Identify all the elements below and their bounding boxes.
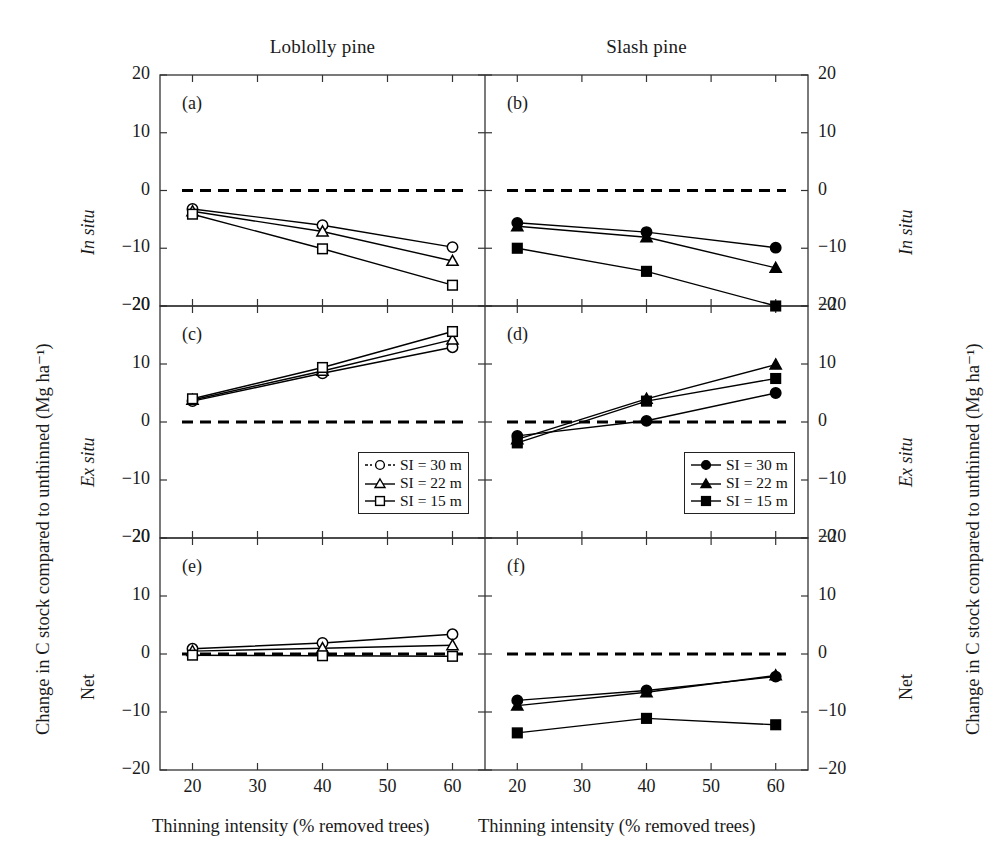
data-point-square	[188, 394, 198, 404]
data-point-square	[642, 396, 652, 406]
y-tick-label: −10	[100, 700, 150, 721]
y-tick-label: 10	[818, 584, 868, 605]
y-tick-label: 10	[818, 121, 868, 142]
legend-label: SI = 22 m	[726, 474, 788, 492]
circle-filled-icon	[689, 457, 723, 473]
x-tick-label: 60	[751, 776, 801, 797]
data-point-square	[771, 301, 781, 311]
data-point-circle	[447, 629, 457, 639]
legend-label: SI = 15 m	[400, 492, 462, 510]
data-point-circle	[447, 242, 457, 252]
data-point-circle	[641, 416, 651, 426]
series-line	[517, 379, 775, 443]
data-point-square	[188, 650, 198, 660]
y-tick-label: 10	[818, 352, 868, 373]
data-point-circle	[771, 242, 781, 252]
y-tick-label: 20	[100, 294, 150, 315]
legend-item: SI = 30 m	[689, 456, 788, 474]
triangle-filled-icon	[689, 475, 723, 491]
legend-label: SI = 30 m	[400, 456, 462, 474]
legend-label: SI = 30 m	[726, 456, 788, 474]
square-filled-icon	[689, 493, 723, 509]
x-tick-label: 50	[363, 776, 413, 797]
y-tick-label: 20	[818, 526, 868, 547]
data-point-square	[448, 327, 458, 337]
y-tick-label: 10	[100, 121, 150, 142]
data-point-square	[318, 651, 328, 661]
data-point-square	[513, 438, 523, 448]
data-point-triangle	[770, 359, 781, 369]
data-point-square	[771, 720, 781, 730]
panel-tag-b: (b)	[507, 93, 528, 114]
data-point-square	[188, 209, 198, 219]
circle-open-icon	[363, 457, 397, 473]
legend-item: SI = 15 m	[689, 492, 788, 510]
y-tick-label: 0	[100, 179, 150, 200]
data-point-square	[771, 374, 781, 384]
y-tick-label: 0	[818, 642, 868, 663]
data-point-square	[642, 714, 652, 724]
legend-slash: SI = 30 m SI = 22 m SI = 15 m	[684, 452, 795, 514]
panel-tag-e: (e)	[182, 556, 202, 577]
triangle-open-icon	[363, 475, 397, 491]
x-tick-label: 30	[557, 776, 607, 797]
series-line	[517, 248, 775, 306]
y-tick-label: −10	[818, 700, 868, 721]
x-tick-label: 40	[298, 776, 348, 797]
data-point-square	[318, 244, 328, 254]
y-tick-label: −10	[100, 468, 150, 489]
y-tick-label: 10	[100, 352, 150, 373]
x-tick-label: 40	[622, 776, 672, 797]
y-tick-label: 20	[818, 63, 868, 84]
data-point-circle	[771, 388, 781, 398]
legend-label: SI = 22 m	[400, 474, 462, 492]
panel-tag-d: (d)	[507, 324, 528, 345]
data-point-square	[513, 243, 523, 253]
data-point-square	[318, 363, 328, 373]
y-tick-label: 0	[818, 410, 868, 431]
data-point-square	[642, 267, 652, 277]
y-tick-label: 0	[818, 179, 868, 200]
legend-loblolly: SI = 30 m SI = 22 m SI = 15 m	[358, 452, 469, 514]
y-tick-label: −20	[818, 758, 868, 779]
x-tick-label: 20	[168, 776, 218, 797]
x-tick-label: 50	[686, 776, 736, 797]
y-tick-label: 20	[100, 526, 150, 547]
y-tick-label: 10	[100, 584, 150, 605]
y-tick-label: −10	[818, 236, 868, 257]
y-tick-label: 20	[100, 63, 150, 84]
legend-item: SI = 22 m	[689, 474, 788, 492]
panel-tag-c: (c)	[182, 324, 202, 345]
y-tick-label: −20	[100, 758, 150, 779]
x-tick-label: 20	[492, 776, 542, 797]
data-point-square	[448, 652, 458, 662]
data-point-square	[448, 280, 458, 290]
panel-tag-a: (a)	[182, 93, 202, 114]
panel-tag-f: (f)	[507, 556, 525, 577]
legend-item: SI = 30 m	[363, 456, 462, 474]
y-tick-label: 0	[100, 410, 150, 431]
y-tick-label: −10	[818, 468, 868, 489]
legend-item: SI = 22 m	[363, 474, 462, 492]
square-open-icon	[363, 493, 397, 509]
legend-label: SI = 15 m	[726, 492, 788, 510]
legend-item: SI = 15 m	[363, 492, 462, 510]
y-tick-label: −10	[100, 236, 150, 257]
x-tick-label: 60	[428, 776, 478, 797]
y-tick-label: 20	[818, 294, 868, 315]
figure-root: Loblolly pine Slash pine Change in C sto…	[0, 0, 984, 866]
y-tick-label: 0	[100, 642, 150, 663]
x-tick-label: 30	[233, 776, 283, 797]
data-point-square	[513, 728, 523, 738]
